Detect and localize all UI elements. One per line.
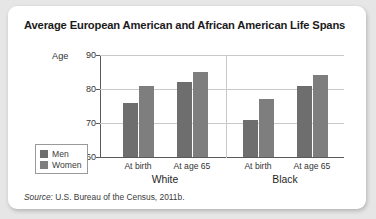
group-divider: [226, 55, 227, 158]
legend-label: Men: [52, 149, 69, 159]
legend-item: Women: [40, 159, 81, 170]
legend-swatch-icon: [40, 161, 48, 169]
chart-title: Average European American and African Am…: [24, 19, 345, 31]
chart-legend: MenWomen: [35, 144, 88, 174]
gridline: [100, 55, 344, 56]
y-axis-title: Age: [52, 51, 68, 61]
bar-women-1: [193, 72, 208, 157]
bar-men-2: [243, 120, 258, 157]
y-axis-line: [100, 55, 101, 158]
y-axis-tick-label: 90: [86, 50, 96, 60]
x-axis-category-label: At birth: [124, 161, 151, 171]
y-axis-tick-label: 70: [86, 118, 96, 128]
y-axis-tick-labels: 60708090: [76, 49, 96, 158]
bar-men-1: [177, 82, 192, 157]
x-axis-category-label: At age 65: [174, 161, 211, 171]
y-axis-tick: [96, 89, 100, 90]
chart-card: Average European American and African Am…: [8, 6, 366, 209]
plot-area: [100, 49, 344, 158]
bar-women-3: [313, 75, 328, 157]
source-value: U.S. Bureau of the Census, 2011b.: [53, 192, 185, 202]
y-axis-tick: [96, 123, 100, 124]
x-axis-category-label: At age 65: [294, 161, 331, 171]
y-axis-tick-label: 80: [86, 84, 96, 94]
x-axis-group-label: White: [152, 174, 179, 185]
bar-women-0: [139, 86, 154, 157]
legend-swatch-icon: [40, 150, 48, 158]
source-label: Source:: [24, 192, 53, 202]
x-axis-category-labels: At birthAt age 65At birthAt age 65: [100, 161, 344, 173]
x-axis-group-label: Black: [272, 174, 297, 185]
bar-men-0: [123, 103, 138, 157]
x-axis-line: [100, 157, 344, 158]
bar-women-2: [259, 99, 274, 157]
x-axis-group-labels: WhiteBlack: [100, 174, 344, 188]
legend-item: Men: [40, 148, 81, 159]
bar-men-3: [297, 86, 312, 157]
legend-label: Women: [52, 160, 81, 170]
x-axis-category-label: At birth: [244, 161, 271, 171]
y-axis-tick: [96, 55, 100, 56]
y-axis-tick: [96, 157, 100, 158]
source-note: Source: U.S. Bureau of the Census, 2011b…: [24, 192, 184, 202]
